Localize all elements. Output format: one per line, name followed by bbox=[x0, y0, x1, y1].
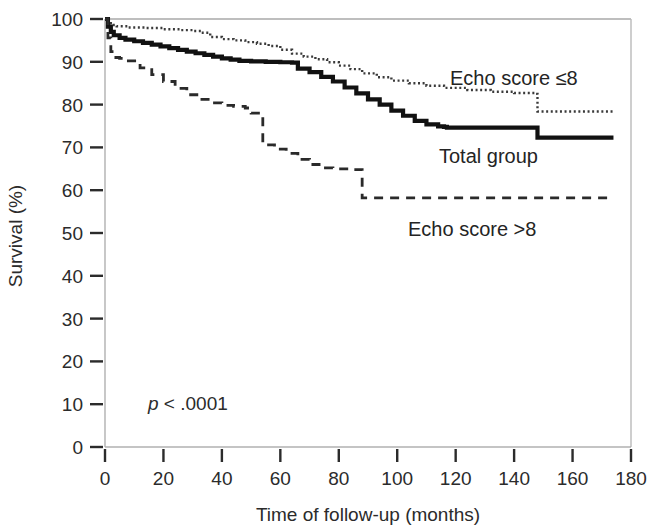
y-tick-label: 60 bbox=[62, 180, 83, 201]
y-tick-label: 10 bbox=[62, 394, 83, 415]
x-tick-label: 100 bbox=[381, 468, 413, 489]
x-tick-label: 180 bbox=[615, 468, 647, 489]
p-value-text: < .0001 bbox=[159, 393, 228, 414]
chart-svg: 0102030405060708090100 02040608010012014… bbox=[0, 0, 648, 529]
y-tick-label: 100 bbox=[51, 9, 83, 30]
y-axis-title: Survival (%) bbox=[5, 185, 26, 287]
x-tick-label: 120 bbox=[440, 468, 472, 489]
echo-score-le8-label: Echo score ≤8 bbox=[450, 67, 578, 89]
y-tick-label: 20 bbox=[62, 351, 83, 372]
x-tick-label: 0 bbox=[100, 468, 111, 489]
series-line-dotted bbox=[105, 19, 613, 111]
total-group-label: Total group bbox=[439, 145, 538, 167]
x-tick-label: 60 bbox=[270, 468, 291, 489]
x-tick-label: 160 bbox=[557, 468, 589, 489]
y-tick-label: 0 bbox=[72, 437, 83, 458]
p-value-annotation: p < .0001 bbox=[147, 393, 228, 414]
y-tick-label: 50 bbox=[62, 223, 83, 244]
x-tick-label: 20 bbox=[153, 468, 174, 489]
series-line-dashed bbox=[105, 19, 613, 198]
y-tick-label: 90 bbox=[62, 52, 83, 73]
y-tick-label: 70 bbox=[62, 137, 83, 158]
x-tick-label: 80 bbox=[328, 468, 349, 489]
p-value-symbol: p bbox=[147, 393, 159, 414]
x-axis-title: Time of follow-up (months) bbox=[256, 504, 480, 525]
x-tick-label: 40 bbox=[211, 468, 232, 489]
echo-score-gt8-label: Echo score >8 bbox=[408, 218, 536, 240]
y-tick-label: 40 bbox=[62, 266, 83, 287]
y-tick-label: 80 bbox=[62, 95, 83, 116]
x-tick-label: 140 bbox=[498, 468, 530, 489]
series-layer bbox=[105, 19, 613, 198]
x-axis-ticks: 020406080100120140160180 bbox=[100, 449, 647, 489]
y-tick-label: 30 bbox=[62, 309, 83, 330]
survival-chart: 0102030405060708090100 02040608010012014… bbox=[0, 0, 648, 529]
y-axis-ticks: 0102030405060708090100 bbox=[51, 9, 103, 458]
